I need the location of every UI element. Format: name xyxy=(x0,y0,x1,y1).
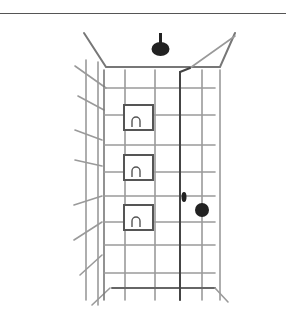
shower-illustration xyxy=(0,0,286,322)
shower-drawing xyxy=(0,0,286,322)
shower-head-icon xyxy=(152,33,170,56)
wall-niches xyxy=(124,105,153,230)
